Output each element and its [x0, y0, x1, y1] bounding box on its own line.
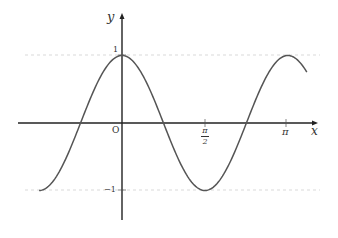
- plot-canvas: [0, 0, 338, 238]
- cosine-chart: y 1 −1 O π 2 π x: [0, 0, 338, 238]
- x-tick-label-pi-half: π 2: [200, 127, 210, 146]
- x-tick-label-pi: π: [282, 127, 289, 137]
- origin-label: O: [112, 126, 119, 135]
- frac-numerator: π: [202, 126, 207, 135]
- y-axis-label: y: [107, 10, 114, 23]
- y-axis-arrow-icon: [120, 13, 125, 19]
- frac-denominator: 2: [202, 137, 207, 146]
- y-tick-label-1: 1: [113, 46, 118, 54]
- x-axis-label: x: [311, 125, 318, 137]
- y-tick-label-neg1: −1: [104, 186, 116, 194]
